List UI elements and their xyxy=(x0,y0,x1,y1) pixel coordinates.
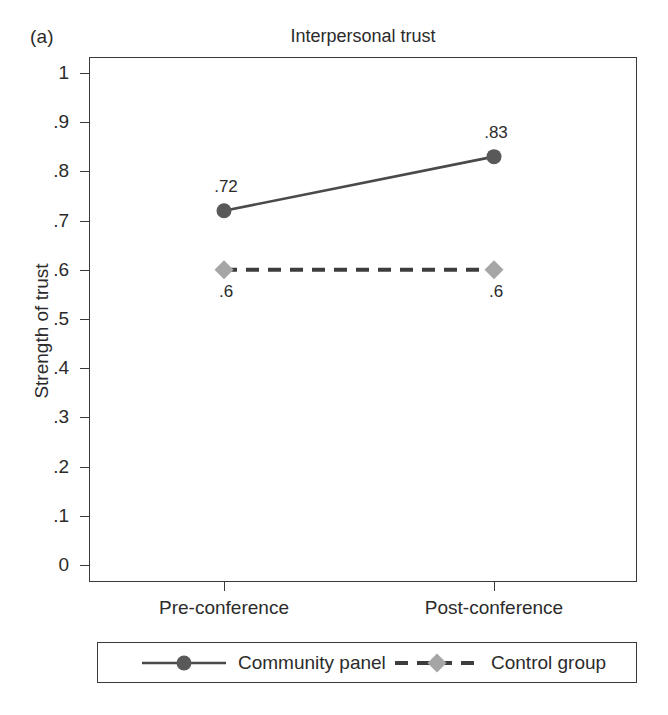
y-tick-label: .2 xyxy=(17,457,69,476)
x-tick-mark xyxy=(494,582,495,591)
x-tick-label: Pre-conference xyxy=(159,597,289,619)
y-tick-mark xyxy=(80,122,89,123)
data-point-label: .6 xyxy=(489,282,503,302)
x-tick-label: Post-conference xyxy=(425,597,563,619)
legend-label: Community panel xyxy=(238,652,386,674)
y-tick-label: 0 xyxy=(17,555,69,574)
plot-frame xyxy=(89,57,637,582)
y-tick-label: .9 xyxy=(17,112,69,131)
y-tick-mark xyxy=(80,73,89,74)
y-tick-mark xyxy=(80,516,89,517)
legend-entry-2[interactable]: Control group xyxy=(393,642,606,683)
data-point-label: .83 xyxy=(484,123,508,143)
y-tick-mark xyxy=(80,270,89,271)
y-tick-mark xyxy=(80,221,89,222)
legend-circle-marker-icon xyxy=(140,653,228,673)
y-tick-mark xyxy=(80,565,89,566)
data-point-label: .72 xyxy=(214,177,238,197)
y-tick-mark xyxy=(80,171,89,172)
y-tick-label: .5 xyxy=(17,309,69,328)
panel-letter: (a) xyxy=(30,26,54,48)
y-tick-label: .3 xyxy=(17,407,69,426)
y-tick-label: .4 xyxy=(17,358,69,377)
legend-label: Control group xyxy=(491,652,606,674)
y-tick-mark xyxy=(80,467,89,468)
y-tick-label: .8 xyxy=(17,161,69,180)
y-tick-label: .1 xyxy=(17,506,69,525)
y-tick-mark xyxy=(80,319,89,320)
y-tick-label: 1 xyxy=(17,63,69,82)
y-tick-label: .7 xyxy=(17,211,69,230)
figure-panel-a: (a) Interpersonal trust Strength of trus… xyxy=(0,0,668,715)
y-tick-mark xyxy=(80,368,89,369)
y-tick-label: .6 xyxy=(17,260,69,279)
y-tick-mark xyxy=(80,417,89,418)
chart-title: Interpersonal trust xyxy=(89,26,637,47)
legend-diamond-marker-icon xyxy=(393,653,481,673)
x-tick-mark xyxy=(224,582,225,591)
legend-entry-1[interactable]: Community panel xyxy=(140,642,386,683)
data-point-label: .6 xyxy=(219,282,233,302)
